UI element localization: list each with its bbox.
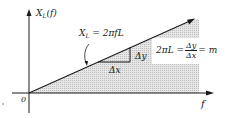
line-eq-rhs: = 2πfL bbox=[92, 28, 123, 38]
delta-y-label: Δy bbox=[135, 52, 147, 61]
slope-numerator: Δy bbox=[185, 41, 197, 51]
y-axis-label-arg: (f) bbox=[46, 8, 56, 18]
x-axis-arrow-icon bbox=[206, 91, 214, 96]
slope-eq-rhs: = m bbox=[198, 46, 217, 55]
line-eq-sub: L bbox=[85, 32, 89, 39]
equation-leader-line bbox=[85, 44, 89, 63]
stray-dot bbox=[2, 103, 3, 104]
slope-eq-lhs: 2πL = bbox=[156, 46, 184, 55]
leader-arrow-icon bbox=[85, 61, 89, 66]
y-axis-arrow-icon bbox=[27, 9, 32, 16]
origin-label: 0 bbox=[21, 96, 26, 104]
reactance-vs-frequency-diagram: XL(f) XL = 2πfL Δy Δx 2πL = Δy Δx = m 0 … bbox=[0, 0, 231, 118]
slope-fraction: Δy Δx bbox=[185, 41, 197, 60]
slope-denominator: Δx bbox=[186, 51, 196, 60]
x-axis-label: f bbox=[201, 99, 205, 109]
y-axis-label: XL(f) bbox=[36, 9, 57, 19]
slope-equation-label: 2πL = Δy Δx = m bbox=[156, 41, 217, 60]
line-equation-label: XL = 2πfL bbox=[79, 29, 124, 39]
delta-x-label: Δx bbox=[109, 66, 121, 75]
